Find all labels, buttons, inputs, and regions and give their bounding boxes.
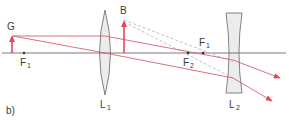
- lens-label-l2: L: [229, 99, 235, 110]
- focal-label-f1-left: F: [20, 57, 26, 68]
- focal-point-f1-left: [23, 52, 26, 55]
- lens-label-l1: L: [100, 99, 106, 110]
- dashed-virtual-ray-1: [124, 20, 233, 62]
- focal-sub-f1-left: 1: [27, 62, 31, 69]
- focal-sub-f1-right: 1: [206, 42, 210, 49]
- object-label: G: [7, 21, 15, 32]
- image-label: B: [120, 5, 127, 16]
- focal-label-f1-right: F: [199, 37, 205, 48]
- lens-sub-l1: 1: [107, 104, 111, 111]
- lens-sub-l2: 2: [236, 104, 240, 111]
- focal-label-f2: F: [183, 57, 189, 68]
- part-label: b): [6, 105, 15, 116]
- focal-point-f2: [187, 52, 190, 55]
- focal-point-f1-right: [202, 52, 205, 55]
- optics-diagram: G B F 1 F 2 F 1 L 1 L 2 b): [0, 0, 289, 123]
- focal-sub-f2: 2: [190, 62, 194, 69]
